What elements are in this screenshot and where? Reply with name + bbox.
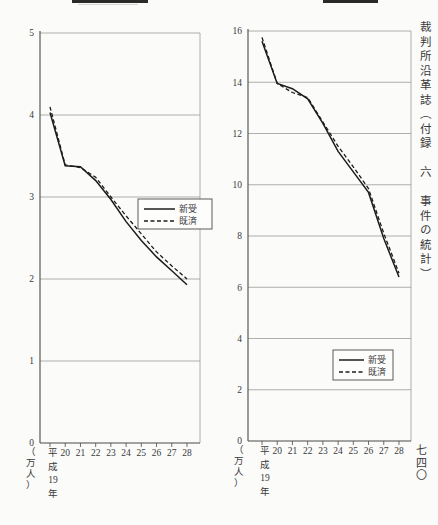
y-tick-label: 8 xyxy=(237,231,242,241)
x-tick-label: 22 xyxy=(303,446,313,456)
series-line-solid xyxy=(262,41,399,277)
x-tick-label-era: 年 xyxy=(260,486,270,497)
y-tick-label: 16 xyxy=(233,26,243,36)
y-tick-label: 1 xyxy=(29,356,34,366)
y-tick-label: 3 xyxy=(29,192,34,202)
x-tick-label: 27 xyxy=(167,448,177,458)
x-tick-label-era: 成 xyxy=(48,461,58,472)
x-tick-label: 20 xyxy=(272,446,282,456)
x-tick-label-era: 平 xyxy=(260,446,270,456)
y-unit-label: ） xyxy=(26,479,36,490)
y-tick-label: 5 xyxy=(29,28,34,38)
y-unit-label: ） xyxy=(234,477,244,488)
x-tick-label: 24 xyxy=(333,446,343,456)
x-tick-label: 28 xyxy=(394,446,404,456)
page-number: 七四〇 xyxy=(413,444,429,504)
y-tick-label: 10 xyxy=(233,180,243,190)
x-tick-label: 23 xyxy=(106,448,116,458)
x-tick-label: 25 xyxy=(349,446,359,456)
x-tick-label: 27 xyxy=(379,446,389,456)
x-tick-label: 21 xyxy=(288,446,298,456)
y-unit-label: 人 xyxy=(26,469,36,479)
scanned-book-page: 012345平成19年202122232425262728（万人）新受既済 02… xyxy=(0,0,438,525)
x-tick-label: 20 xyxy=(60,448,70,458)
legend-box xyxy=(138,199,212,229)
y-tick-label: 4 xyxy=(29,110,34,120)
x-tick-label-era: 19 xyxy=(48,475,58,485)
y-tick-label: 4 xyxy=(237,334,242,344)
y-tick-label: 14 xyxy=(233,78,243,88)
x-tick-label: 22 xyxy=(91,448,101,458)
x-tick-label-era: 年 xyxy=(48,488,58,499)
x-tick-label-era: 平 xyxy=(48,448,58,458)
legend-label: 既済 xyxy=(179,215,197,226)
legend-label: 新受 xyxy=(179,203,197,214)
x-tick-label: 25 xyxy=(137,448,147,458)
y-tick-label: 2 xyxy=(29,274,34,284)
x-tick-label: 26 xyxy=(152,448,162,458)
document-side-title: 裁判所沿革誌（付録 六 事件の統計） xyxy=(417,21,433,321)
x-tick-label: 28 xyxy=(182,448,192,458)
x-tick-label-era: 成 xyxy=(260,459,270,470)
series-line-dashed xyxy=(50,107,187,279)
charts-canvas: 012345平成19年202122232425262728（万人）新受既済 02… xyxy=(0,0,438,525)
y-unit-label: 万 xyxy=(26,458,36,468)
x-tick-label: 21 xyxy=(76,448,86,458)
y-tick-label: 2 xyxy=(237,385,242,395)
y-unit-label: 人 xyxy=(234,467,244,477)
line-chart-left: 012345平成19年202122232425262728（万人）新受既済 xyxy=(26,28,212,498)
line-chart-right: 0246810121416平成19年202122232425262728（万人）… xyxy=(233,26,412,496)
x-tick-label: 24 xyxy=(121,448,131,458)
y-tick-label: 6 xyxy=(237,283,242,293)
legend-label: 新受 xyxy=(368,354,386,365)
legend-label: 既済 xyxy=(368,366,386,377)
y-unit-label: 万 xyxy=(234,456,244,466)
x-tick-label-era: 19 xyxy=(260,473,270,483)
x-tick-label: 23 xyxy=(318,446,328,456)
x-tick-label: 26 xyxy=(364,446,374,456)
series-line-dashed xyxy=(262,37,399,273)
y-unit-label: （ xyxy=(234,444,244,455)
y-tick-label: 12 xyxy=(233,129,243,139)
y-unit-label: （ xyxy=(26,446,36,457)
